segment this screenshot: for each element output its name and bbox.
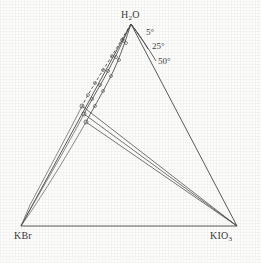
tie-line-25 — [84, 114, 237, 226]
tie-lines — [82, 106, 237, 226]
isotherm-50-markers — [94, 42, 128, 108]
isotherm-label-25: 25° — [152, 41, 165, 51]
tie-line-5 — [82, 106, 237, 226]
vertex-label-kio3: KIO3 — [210, 230, 232, 243]
ternary-phase-diagram-figure: H2O KBr KIO3 5° 25° 50° — [0, 0, 261, 263]
kbr-branch-50 — [21, 122, 86, 226]
kbr-branch-25 — [21, 114, 84, 226]
phase-diagram-plot — [0, 0, 261, 263]
vertex-label-kbr: KBr — [14, 230, 32, 241]
tie-line-50 — [86, 122, 237, 226]
isotherm-label-50: 50° — [158, 56, 171, 66]
vertex-label-h2o: H2O — [121, 9, 140, 22]
triangle-edges — [21, 24, 237, 226]
triangle-outline — [21, 24, 237, 226]
isotherm-25-markers — [91, 40, 126, 101]
kbr-branch-5 — [21, 106, 82, 226]
isotherm-5-kbr-branch — [82, 24, 131, 106]
isotherm-label-5: 5° — [146, 27, 154, 37]
